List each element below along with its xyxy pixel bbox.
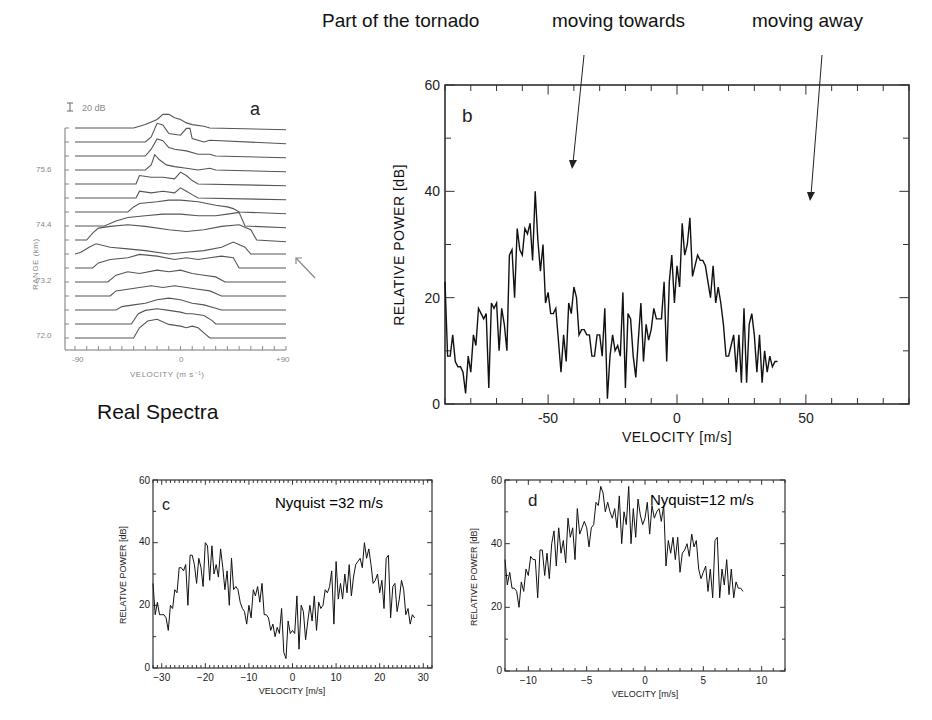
x-tick-label: −5 [581,675,593,686]
nyquist-label: Nyquist=12 m/s [650,491,754,508]
x-tick-label: 0 [179,355,184,364]
nyquist-label: Nyquist =32 m/s [275,494,383,511]
arrow-towards-icon [569,55,584,169]
panel-a-letter: a [250,99,261,119]
x-axis-label: VELOCITY [m/s] [622,429,732,445]
spectrum-trace [75,200,286,214]
x-tick-label: −10 [240,672,257,683]
y-tick-label: 72.0 [36,331,52,340]
plot-frame [505,480,785,671]
y-tick-label: 0 [432,396,440,412]
y-tick-label: 0 [144,662,150,673]
y-tick-label: 60 [424,77,440,93]
y-tick-label: 20 [424,290,440,306]
x-axis-label: VELOCITY [m/s] [612,689,678,699]
x-tick-label: 0 [673,410,681,426]
panel-c-letter: c [162,496,170,513]
x-tick-label: -50 [538,410,558,426]
spectrum-trace [75,309,286,324]
y-axis-label: RELATIVE POWER [dB] [469,528,479,626]
y-tick-label: 40 [491,538,503,549]
x-tick-label: 30 [418,672,430,683]
x-tick-label: −30 [153,672,170,683]
panel-d-letter: d [528,491,537,510]
y-axis-label: RANGE (km) [31,238,40,290]
spectrum-trace [75,319,286,338]
spectrum-trace [75,254,286,268]
x-tick-label: 50 [798,410,814,426]
spectrum-line [445,191,778,398]
x-axis-ticks [75,346,286,350]
x-tick-label: 5 [701,675,707,686]
x-tick-label: 0 [642,675,648,686]
panel-b-letter: b [462,105,473,126]
y-axis-label: RELATIVE POWER [dB] [118,526,128,624]
y-tick-label: 20 [491,601,503,612]
x-tick-label: −20 [197,672,214,683]
x-tick-label: +90 [276,355,290,364]
spectrum-trace [75,212,286,227]
panel-a: 20 dB a -90 0 +90 VELOCITY (m s⁻¹) 72.0 … [31,99,315,379]
axis-ticks [445,85,909,404]
y-tick-label: 40 [139,536,151,547]
y-tick-label: 20 [139,599,151,610]
y-tick-label: 75.6 [36,165,52,174]
spectrum-trace [75,270,286,282]
axis-ticks [505,480,785,671]
x-tick-label: 10 [756,675,768,686]
plot-frame [445,85,909,404]
y-tick-label: 60 [139,475,151,486]
range-arrow-icon [296,258,315,278]
panel-b: b 0 20 40 60 -50 0 50 VELOCITY [m/s] REL… [391,55,909,445]
y-tick-label: 40 [424,183,440,199]
y-axis-label: RELATIVE POWER [dB] [391,164,407,326]
spectrum-trace [75,242,286,254]
y-tick-label: 0 [496,665,502,676]
panel-d: d Nyquist=12 m/s 0 20 40 60 −10−50510 VE… [469,475,785,699]
x-tick-label: −10 [520,675,537,686]
x-tick-labels: −30−20−100102030 [153,672,429,683]
x-axis-label: VELOCITY [m/s] [259,686,325,696]
scale-bar-label: 20 dB [82,103,106,113]
figure-canvas: 20 dB a -90 0 +90 VELOCITY (m s⁻¹) 72.0 … [0,0,932,720]
spectrum-trace [75,286,286,296]
y-tick-label: 60 [491,475,503,486]
spectrum-trace [75,298,286,310]
arrow-away-icon [807,55,822,201]
x-tick-label: 0 [290,672,296,683]
x-tick-label: -90 [72,355,84,364]
spectra-traces [65,114,286,338]
x-tick-label: 20 [374,672,386,683]
x-axis-label: VELOCITY (m s⁻¹) [130,370,205,379]
panel-c: c Nyquist =32 m/s 0 20 40 60 −30−20−1001… [118,475,432,696]
x-tick-label: 10 [331,672,343,683]
spectrum-trace [75,172,286,186]
x-tick-labels: −10−50510 [520,675,768,686]
spectrum-trace [75,188,286,200]
y-tick-label: 74.4 [36,220,52,229]
spectrum-trace [75,225,286,242]
scale-bar-icon [67,103,73,111]
spectrum-line [153,543,415,659]
spectrum-trace [75,123,286,143]
